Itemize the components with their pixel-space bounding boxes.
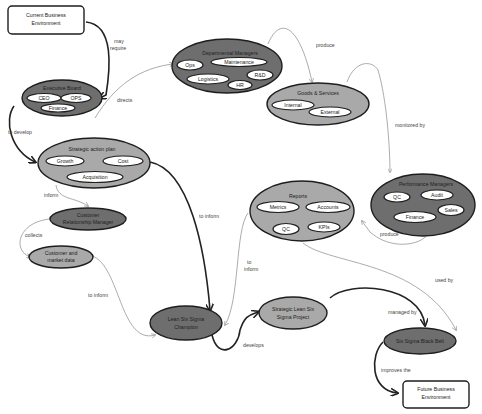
sub-item-label: R&D (255, 72, 266, 78)
node-title: Executive Board (43, 85, 81, 91)
sub-item-label: Ops (185, 62, 195, 68)
node-label-line2: market data (47, 257, 75, 263)
node-lean-six-sigma-champion[interactable]: Lean Six Sigma Champion (150, 306, 222, 340)
edge-label-used-by: used by (435, 277, 454, 283)
sub-item-internal[interactable]: Internal (272, 100, 314, 110)
node-performance-managers[interactable]: Performance Managers QC Audit Sales Fina… (371, 174, 475, 236)
node-title: Reports (289, 193, 308, 199)
node-label-line1: Lean Six Sigma (168, 316, 204, 322)
sub-item-label: Finance (406, 214, 425, 220)
edge-label-inform-reports: inform (244, 266, 258, 272)
sub-item-label: Internal (284, 102, 301, 108)
node-label-line1: Future Business (417, 386, 455, 392)
sub-item-logistics[interactable]: Logistics (187, 74, 229, 84)
node-title: Performance Managers (399, 181, 454, 187)
sub-item-label: Metrics (270, 204, 287, 210)
edge-label-improves-the: improves the (381, 367, 411, 373)
sub-item-label: External (320, 109, 339, 115)
node-title: Strategic action plan (68, 146, 115, 152)
sub-item-ops[interactable]: Ops (177, 60, 203, 70)
node-executive-board[interactable]: Executive Board CEO OPS Finance (22, 80, 102, 116)
node-six-sigma-black-belt[interactable]: Six Sigma Black Belt (384, 328, 456, 354)
sub-item-growth[interactable]: Growth (46, 156, 84, 166)
sub-item-label: CEO (38, 95, 49, 101)
node-strategic-action-plan[interactable]: Strategic action plan Growth Cost Acquis… (38, 138, 150, 188)
edge-label-require: require (110, 45, 126, 51)
node-customer-relationship-manager[interactable]: Customer Relationship Manager (50, 208, 126, 230)
sub-item-label: Growth (57, 158, 74, 164)
node-title: Six Sigma Black Belt (396, 338, 444, 344)
edge-label-may: may (114, 38, 124, 44)
node-goods-and-services[interactable]: Goods & Services Internal External (267, 83, 369, 125)
edge-label-produce-top: produce (316, 42, 335, 48)
concept-map: may require directs produce to develop m… (0, 0, 482, 414)
sub-item-kpis[interactable]: KPIs (308, 222, 340, 232)
sub-item-label: HR (236, 82, 244, 88)
sub-item-qc[interactable]: QC (273, 224, 299, 235)
sub-item-label: Audit (431, 192, 443, 198)
sub-item-label: Finance (49, 105, 68, 111)
sub-item-ceo[interactable]: CEO (27, 94, 61, 103)
sub-item-hr[interactable]: HR (228, 81, 252, 90)
edge-managed-by (330, 288, 425, 325)
node-label-line2: Sigma Project (277, 314, 310, 320)
sub-item-label: Accounts (317, 204, 339, 210)
sub-item-metrics[interactable]: Metrics (257, 202, 299, 213)
sub-item-audit[interactable]: Audit (421, 190, 453, 200)
sub-item-finance[interactable]: Finance (394, 212, 436, 223)
sub-item-label: Logistics (198, 76, 219, 82)
edge-label-managed-by: managed by (388, 309, 417, 315)
edge-label-collects: collects (25, 232, 43, 238)
node-title: Departmental Managers (202, 50, 258, 56)
node-current-business-environment[interactable]: Current Business Environment (8, 6, 84, 34)
sub-item-finance[interactable]: Finance (41, 104, 75, 112)
sub-item-label: Acquisition (82, 174, 107, 180)
node-label-line1: Current Business (26, 12, 66, 18)
sub-item-sales[interactable]: Sales (438, 205, 464, 216)
node-reports[interactable]: Reports Metrics Accounts QC KPIs (250, 181, 354, 241)
node-label-line1: Customer (77, 212, 100, 218)
sub-item-label: Cost (118, 158, 129, 164)
node-label-line2: Champion (174, 324, 198, 330)
node-label-line2: Relationship Manager (63, 219, 114, 225)
node-customer-and-market-data[interactable]: Customer and market data (29, 246, 93, 268)
node-strategic-lean-six-sigma-project[interactable]: Strategic Lean Six Sigma Project (259, 297, 327, 329)
node-departmental-managers[interactable]: Departmental Managers Ops Maintenance Lo… (172, 39, 282, 93)
edge-label-directs: directs (117, 97, 133, 103)
sub-item-acquisition[interactable]: Acquisition (67, 172, 123, 183)
sub-item-label: KPIs (319, 224, 330, 230)
sub-item-maintenance[interactable]: Maintenance (211, 58, 267, 67)
node-title: Goods & Services (297, 90, 339, 96)
sub-item-cost[interactable]: Cost (103, 156, 143, 166)
node-future-business-environment[interactable]: Future Business Environment (403, 381, 469, 408)
sub-item-accounts[interactable]: Accounts (306, 202, 350, 213)
sub-item-qc[interactable]: QC (384, 192, 410, 202)
sub-item-ops[interactable]: OPS (61, 94, 91, 103)
sub-item-label: QC (282, 226, 290, 232)
node-label-line1: Strategic Lean Six (272, 306, 315, 312)
edge-label-inform: inform (44, 192, 58, 198)
sub-item-label: OPS (71, 95, 82, 101)
sub-item-label: QC (393, 194, 401, 200)
node-label-line2: Environment (421, 394, 451, 400)
edge-to-inform-center (150, 162, 210, 310)
node-label-line2: Environment (31, 20, 61, 26)
sub-item-r-and-d[interactable]: R&D (247, 70, 273, 80)
sub-item-external[interactable]: External (309, 107, 351, 117)
edge-label-monitored-by: monitored by (395, 122, 425, 128)
node-label-line1: Customer and (45, 250, 78, 256)
edge-label-develops: develops (243, 342, 264, 348)
edge-label-to: to (247, 259, 251, 265)
sub-item-label: Maintenance (224, 59, 254, 65)
edge-label-to-develop: to develop (8, 129, 32, 135)
edge-label-to-inform-market: to inform (88, 292, 108, 298)
edge-label-to-inform-center: to inform (199, 213, 219, 219)
sub-item-label: Sales (445, 207, 458, 213)
